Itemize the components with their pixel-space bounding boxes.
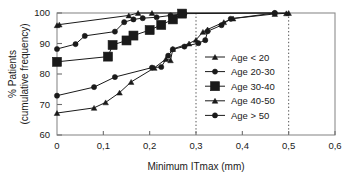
data-point — [131, 17, 136, 22]
data-point — [157, 20, 166, 29]
legend-item-age-40-50: Age 40-50 — [205, 95, 275, 106]
data-point — [140, 16, 145, 21]
y-axis-title-line-1: % Patients — [7, 50, 18, 98]
chart-screenshot: 60708090100 00,10,20,30,40,50,6 Age < 20… — [0, 0, 348, 178]
data-point — [122, 20, 127, 25]
data-point — [112, 74, 117, 79]
y-axis-title-line-2: (cumulative frequency) — [19, 23, 30, 124]
data-point — [108, 41, 117, 50]
data-point — [149, 65, 154, 70]
series-line — [57, 13, 275, 49]
chart-legend: Age < 20Age 20-30Age 30-40Age 40-50Age >… — [205, 52, 275, 121]
data-point — [272, 10, 277, 15]
legend-label: Age < 20 — [231, 52, 269, 63]
data-point — [168, 15, 177, 24]
legend-marker — [212, 69, 217, 74]
legend-label: Age > 50 — [231, 110, 269, 121]
data-point — [228, 16, 233, 21]
data-point — [112, 29, 117, 34]
y-tick-label-70: 70 — [39, 99, 50, 110]
x-tick-label-0.6: 0,6 — [328, 140, 341, 151]
legend-label: Age 20-30 — [231, 66, 275, 77]
cumulative-frequency-chart: 60708090100 00,10,20,30,40,50,6 Age < 20… — [0, 0, 348, 178]
data-point — [154, 15, 159, 20]
y-tick-label-80: 80 — [39, 68, 50, 79]
y-tick-label-100: 100 — [34, 7, 50, 18]
data-point — [82, 33, 87, 38]
y-tick-label-90: 90 — [39, 38, 50, 49]
data-point — [129, 31, 138, 40]
data-point — [182, 44, 187, 49]
data-point — [170, 47, 175, 52]
legend-item-age-20: Age < 20 — [205, 52, 269, 63]
data-point — [178, 9, 187, 18]
data-point — [203, 38, 208, 43]
data-point — [73, 42, 78, 47]
x-tick-label-0.1: 0,1 — [97, 140, 110, 151]
legend-item-age-30-40: Age 30-40 — [205, 81, 275, 92]
legend-item-age-20-30: Age 20-30 — [205, 66, 275, 77]
y-tick-label-60: 60 — [39, 129, 50, 140]
x-tick-label-0.4: 0,4 — [236, 140, 249, 151]
x-tick-label-0: 0 — [54, 140, 59, 151]
x-axis-ticks: 00,10,20,30,40,50,6 — [54, 131, 341, 151]
legend-item-age-50: Age > 50 — [205, 110, 269, 121]
x-tick-label-0.5: 0,5 — [282, 140, 295, 151]
data-point — [196, 41, 201, 46]
data-point — [166, 53, 171, 58]
x-axis-title: Minimum ITmax (mm) — [147, 161, 244, 172]
legend-marker — [211, 82, 220, 91]
data-point — [205, 29, 210, 34]
data-point — [53, 57, 62, 66]
x-tick-label-0.2: 0,2 — [143, 140, 156, 151]
legend-label: Age 40-50 — [231, 95, 275, 106]
data-point — [159, 64, 164, 69]
data-point — [91, 85, 96, 90]
data-point — [103, 52, 112, 61]
data-point — [145, 26, 154, 35]
data-point — [54, 93, 59, 98]
data-point — [54, 46, 59, 51]
x-tick-label-0.3: 0,3 — [189, 140, 202, 151]
legend-label: Age 30-40 — [231, 81, 275, 92]
legend-marker — [212, 113, 217, 118]
data-point — [219, 23, 224, 28]
